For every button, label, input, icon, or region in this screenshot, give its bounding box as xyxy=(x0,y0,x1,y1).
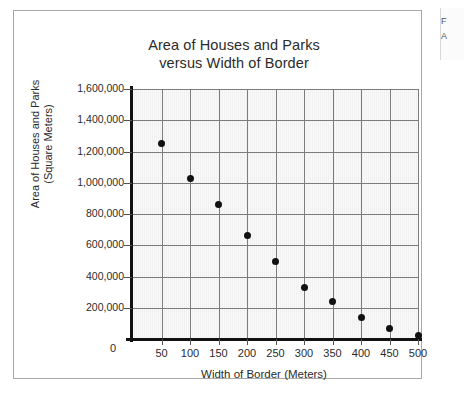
y-axis-tick xyxy=(124,183,132,184)
x-axis-title: Width of Border (Meters) xyxy=(114,368,414,380)
x-axis-tick xyxy=(390,339,391,345)
gridline-vertical xyxy=(276,89,277,339)
y-axis-tick-label-wrap: 400,000 xyxy=(24,277,124,278)
y-axis-tick-label: 600,000 xyxy=(32,238,124,250)
y-axis-tick xyxy=(124,120,132,121)
origin-label: 0 xyxy=(110,342,116,354)
x-axis-line xyxy=(126,338,422,341)
figure-card: Area of Houses and Parks versus Width of… xyxy=(13,10,422,379)
x-axis-tick-label-wrap: 500 xyxy=(418,347,419,348)
data-point xyxy=(358,314,365,321)
y-axis-tick-label: 1,000,000 xyxy=(32,176,124,188)
x-axis-tick-label-wrap: 450 xyxy=(390,347,391,348)
y-axis-tick xyxy=(124,277,132,278)
chart-title-line-1: Area of Houses and Parks xyxy=(54,36,414,54)
margin-note-line-1: F xyxy=(441,14,464,29)
data-point xyxy=(215,201,222,208)
x-axis-tick xyxy=(361,339,362,345)
gridline-vertical xyxy=(219,89,220,339)
y-axis-tick-label: 800,000 xyxy=(32,207,124,219)
data-point xyxy=(187,175,194,182)
y-axis-tick-label: 200,000 xyxy=(32,301,124,313)
y-axis-tick-label-wrap: 1,600,000 xyxy=(24,89,124,90)
x-axis-tick-label-wrap: 250 xyxy=(276,347,277,348)
y-axis-tick xyxy=(124,308,132,309)
gridline-vertical xyxy=(361,89,362,339)
x-axis-tick xyxy=(333,339,334,345)
y-axis-tick-label: 400,000 xyxy=(32,270,124,282)
y-axis-tick xyxy=(124,89,132,90)
margin-note-line-2: A xyxy=(441,29,464,44)
data-point xyxy=(244,232,251,239)
y-axis-tick-label-wrap: 600,000 xyxy=(24,245,124,246)
y-axis-tick-label-wrap: 1,000,000 xyxy=(24,183,124,184)
y-axis-tick-label-wrap: 1,200,000 xyxy=(24,152,124,153)
x-axis-tick-label-wrap: 200 xyxy=(247,347,248,348)
gridline-vertical xyxy=(304,89,305,339)
y-axis-tick xyxy=(124,245,132,246)
x-axis-tick-label: 500 xyxy=(398,347,438,359)
gridline-vertical xyxy=(190,89,191,339)
y-axis-tick-label: 1,400,000 xyxy=(32,113,124,125)
plot-area xyxy=(133,89,418,339)
x-axis-tick xyxy=(276,339,277,345)
y-axis-tick-label-wrap: 800,000 xyxy=(24,214,124,215)
margin-note: F A xyxy=(440,8,464,60)
x-axis-tick xyxy=(247,339,248,345)
x-axis-tick-label-wrap: 300 xyxy=(304,347,305,348)
gridline-vertical xyxy=(390,89,391,339)
y-axis-tick-label: 1,200,000 xyxy=(32,145,124,157)
x-axis-tick-label-wrap: 150 xyxy=(219,347,220,348)
data-point xyxy=(272,258,279,265)
y-axis-tick xyxy=(124,214,132,215)
x-axis-tick xyxy=(190,339,191,345)
y-axis-tick-label-wrap: 200,000 xyxy=(24,308,124,309)
x-axis-tick-label-wrap: 100 xyxy=(190,347,191,348)
x-axis-tick xyxy=(219,339,220,345)
x-axis-tick xyxy=(162,339,163,345)
gridline-vertical xyxy=(162,89,163,339)
x-axis-tick-label-wrap: 50 xyxy=(162,347,163,348)
x-axis-tick xyxy=(304,339,305,345)
x-axis-tick-label-wrap: 350 xyxy=(333,347,334,348)
chart-title: Area of Houses and Parks versus Width of… xyxy=(54,36,414,72)
x-axis-tick-label-wrap: 400 xyxy=(361,347,362,348)
data-point xyxy=(301,284,308,291)
gridline-vertical xyxy=(418,89,419,339)
y-axis-tick-label-wrap: 1,400,000 xyxy=(24,120,124,121)
data-point xyxy=(158,140,165,147)
data-point xyxy=(386,325,393,332)
data-point xyxy=(329,298,336,305)
x-axis-tick xyxy=(418,339,419,345)
y-axis-tick xyxy=(124,152,132,153)
y-axis-tick-label: 1,600,000 xyxy=(32,82,124,94)
chart-title-line-2: versus Width of Border xyxy=(54,54,414,72)
gridline-vertical xyxy=(247,89,248,339)
